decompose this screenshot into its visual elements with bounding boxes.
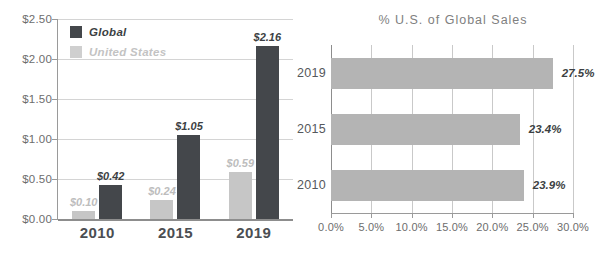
legend-item-global: Global	[70, 23, 166, 40]
y-axis-tick-label: $1.00	[2, 133, 52, 145]
column-bar[interactable]	[150, 200, 173, 219]
bar-category-label: 2019	[292, 66, 326, 80]
horizontal-bar[interactable]	[331, 58, 553, 89]
x-axis-tick-label: 20.0%	[476, 221, 508, 233]
x-axis-category-label: 2015	[158, 224, 193, 241]
y-axis-tick-label: $0.00	[2, 213, 52, 225]
x-axis-tick-mark	[573, 213, 574, 218]
y-axis-tick-label: $1.50	[2, 93, 52, 105]
column-bar[interactable]	[229, 172, 252, 219]
x-axis-tick-mark	[452, 213, 453, 218]
column-bar[interactable]	[99, 185, 122, 219]
column-value-label: $0.10	[70, 196, 98, 208]
chart-legend: Global United States	[70, 23, 166, 63]
y-axis-tick-labels: $2.50$2.00$1.50$1.00$0.50$0.00	[0, 0, 52, 255]
x-axis-category-label: 2019	[236, 224, 271, 241]
x-axis-tick-mark	[412, 213, 413, 218]
bar-row: 23.4%	[331, 114, 573, 145]
gridline	[58, 219, 293, 221]
column-bar[interactable]	[256, 46, 279, 219]
legend-swatch-global-icon	[70, 26, 82, 38]
x-axis-tick-label: 25.0%	[517, 221, 549, 233]
bar-value-label: 27.5%	[562, 67, 595, 79]
x-axis-tick-mark	[331, 213, 332, 218]
horizontal-bar[interactable]	[331, 114, 520, 145]
legend-label-united-states: United States	[89, 46, 166, 58]
legend-swatch-united-states-icon	[70, 46, 82, 58]
legend-label-global: Global	[89, 26, 127, 38]
bar-category-label: 2010	[292, 178, 326, 192]
y-axis-tick-label: $2.50	[2, 13, 52, 25]
x-axis-tick-mark	[371, 213, 372, 218]
x-axis-category-label: 2010	[80, 224, 115, 241]
column-group: $0.59$2.16	[215, 19, 293, 219]
x-axis-tick-label: 10.0%	[396, 221, 428, 233]
bar-category-labels: 201920152010	[292, 0, 326, 255]
x-axis-tick-label: 15.0%	[436, 221, 468, 233]
bar-value-label: 23.9%	[533, 179, 566, 191]
column-value-label: $2.16	[254, 31, 282, 43]
y-axis-tick-label: $0.50	[2, 173, 52, 185]
global-vs-us-sales-chart: $2.50$2.00$1.50$1.00$0.50$0.00 $0.10$0.4…	[0, 0, 300, 255]
column-value-label: $0.24	[148, 185, 176, 197]
bar-row: 27.5%	[331, 58, 573, 89]
x-axis-tick-label: 5.0%	[358, 221, 384, 233]
x-axis-tick-label: 30.0%	[557, 221, 589, 233]
chart-title: % U.S. of Global Sales	[300, 13, 606, 27]
column-value-label: $0.42	[97, 170, 125, 182]
x-axis-tick-mark	[533, 213, 534, 218]
bar-plot-area: 27.5%23.4%23.9%	[331, 45, 573, 213]
x-axis-tick-mark	[492, 213, 493, 218]
legend-item-united-states: United States	[70, 43, 166, 60]
bar-category-label: 2015	[292, 122, 326, 136]
dual-chart-figure: $2.50$2.00$1.50$1.00$0.50$0.00 $0.10$0.4…	[0, 0, 606, 255]
bar-value-label: 23.4%	[529, 123, 562, 135]
horizontal-bar[interactable]	[331, 170, 524, 201]
pct-us-of-global-sales-chart: % U.S. of Global Sales 27.5%23.4%23.9% 2…	[300, 0, 606, 255]
column-bar[interactable]	[177, 135, 200, 219]
column-value-label: $1.05	[175, 120, 203, 132]
column-bar[interactable]	[72, 211, 95, 219]
x-axis-tick-label: 0.0%	[318, 221, 344, 233]
bar-row: 23.9%	[331, 170, 573, 201]
column-value-label: $0.59	[227, 157, 255, 169]
y-axis-tick-label: $2.00	[2, 53, 52, 65]
